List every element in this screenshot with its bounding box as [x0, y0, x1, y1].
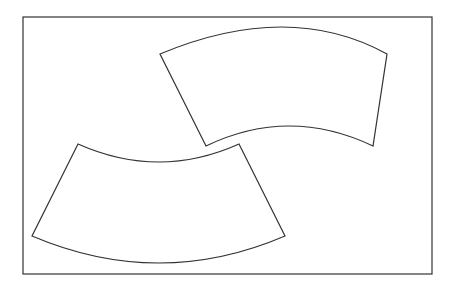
upper-right-arch — [160, 27, 387, 146]
diagram-canvas — [0, 0, 452, 286]
lower-left-arch — [32, 144, 285, 263]
